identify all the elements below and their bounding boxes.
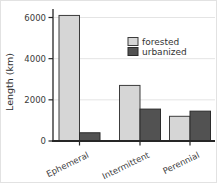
bar-urbanized-ephemeral	[80, 133, 101, 141]
legend-swatch-forested	[128, 38, 138, 46]
legend-label-urbanized: urbanized	[142, 47, 187, 57]
legend-label-forested: forested	[142, 37, 179, 47]
bar-forested-perennial	[170, 116, 191, 141]
x-axis-ticks: EphemeralIntermittentPerennial	[45, 142, 201, 181]
y-tick-label: 4000	[24, 54, 46, 64]
x-tick-label: Intermittent	[101, 150, 152, 182]
bar-chart-figure: 0200040006000 EphemeralIntermittentPeren…	[0, 0, 217, 183]
chart-canvas: 0200040006000 EphemeralIntermittentPeren…	[1, 1, 217, 183]
bar-forested-ephemeral	[59, 15, 80, 141]
legend: forested urbanized	[128, 37, 187, 57]
y-axis-label: Length (km)	[4, 53, 15, 111]
y-tick-label: 0	[41, 136, 46, 146]
y-tick-label: 6000	[24, 13, 46, 23]
bar-series	[59, 15, 211, 141]
x-tick-label: Perennial	[161, 150, 201, 176]
y-axis-ticks: 0200040006000	[24, 13, 53, 147]
legend-swatch-urbanized	[128, 48, 138, 56]
bar-urbanized-intermittent	[140, 109, 161, 141]
x-tick-label: Ephemeral	[45, 150, 91, 179]
bar-urbanized-perennial	[190, 111, 211, 141]
y-tick-label: 2000	[24, 95, 46, 105]
bar-forested-intermittent	[120, 85, 141, 141]
